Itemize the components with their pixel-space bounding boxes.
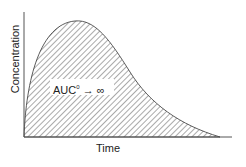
infinity-symbol: ∞: [97, 84, 105, 96]
auc-text: AUC: [53, 84, 76, 96]
arrow-icon: →: [83, 84, 94, 96]
pharmacokinetic-curve-diagram: [0, 0, 246, 167]
x-axis-label: Time: [96, 142, 120, 154]
auc-label: AUC0 → ∞: [50, 79, 114, 95]
y-axis-label: Concentration: [8, 14, 22, 104]
auc-superscript: 0: [76, 84, 79, 90]
